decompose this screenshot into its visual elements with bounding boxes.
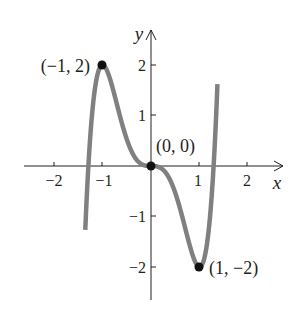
x-axis-label: x	[272, 172, 282, 193]
local-min-point	[195, 263, 204, 272]
x-tick-label: −1	[95, 172, 112, 189]
y-tick-label: 1	[138, 107, 146, 124]
origin-label: (0, 0)	[156, 136, 195, 157]
y-tick-label: −1	[129, 208, 146, 225]
function-plot: −2 −1 1 2 2 1 −1 −2 x y (−1, 2) (0, 0) (…	[0, 0, 301, 310]
y-tick-label: −2	[129, 259, 146, 276]
origin-point	[147, 162, 156, 171]
y-tick-label: 2	[138, 57, 146, 74]
local-min-label: (1, −2)	[209, 258, 258, 279]
local-max-point	[98, 61, 107, 70]
x-tick-label: 2	[243, 172, 251, 189]
y-axis-label: y	[133, 23, 144, 44]
x-tick-label: −2	[45, 172, 62, 189]
x-tick-label: 1	[194, 172, 202, 189]
local-max-label: (−1, 2)	[41, 56, 90, 77]
